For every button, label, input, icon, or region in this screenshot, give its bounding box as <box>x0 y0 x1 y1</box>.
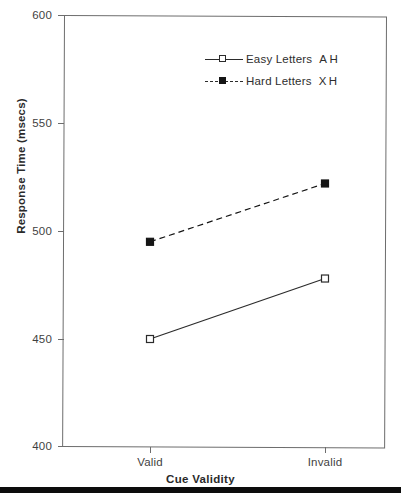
y-tick-mark-500 <box>58 231 64 232</box>
y-tick-label-600: 600 <box>32 9 52 21</box>
x-tick-mark-invalid <box>325 447 326 453</box>
x-tick-mark-valid <box>150 447 151 453</box>
y-tick-mark-400 <box>58 446 64 447</box>
y-tick-mark-600 <box>58 15 64 16</box>
legend-label-easy-letters: Easy Letters <box>246 53 312 65</box>
y-axis-tick-group: 600 550 500 450 400 <box>0 0 60 496</box>
line-chart-figure: 600 550 500 450 400 Response Time (msecs… <box>0 0 401 496</box>
y-axis-title: Response Time (msecs) <box>15 71 27 261</box>
legend-label-hard-letters: Hard Letters <box>246 75 312 87</box>
legend-glyphs-easy-letters: AH <box>319 53 340 65</box>
legend-item-hard-letters: Hard Letters XH <box>205 70 370 92</box>
legend-item-easy-letters: Easy Letters AH <box>205 48 370 70</box>
legend-swatch-easy-letters <box>205 53 243 65</box>
legend-swatch-hard-letters <box>205 75 243 87</box>
y-tick-label-400: 400 <box>32 440 52 452</box>
y-tick-mark-450 <box>58 339 64 340</box>
x-tick-label-valid: Valid <box>137 456 163 468</box>
chart-legend: Easy Letters AH Hard Letters XH <box>205 48 370 92</box>
y-tick-label-550: 550 <box>32 117 52 129</box>
y-tick-label-500: 500 <box>32 225 52 237</box>
legend-glyphs-hard-letters: XH <box>319 75 340 87</box>
y-tick-mark-550 <box>58 123 64 124</box>
x-tick-label-invalid: Invalid <box>308 456 343 468</box>
x-axis-title: Cue Validity <box>0 473 401 485</box>
y-tick-label-450: 450 <box>32 333 52 345</box>
